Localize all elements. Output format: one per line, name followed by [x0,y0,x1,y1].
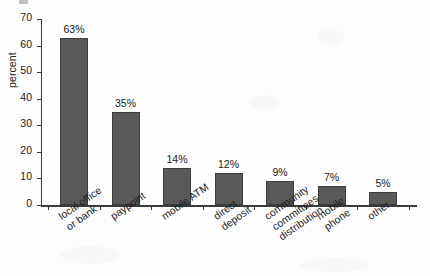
bar-chart-figure: percent 010203040506070 63%35%14%12%9%7%… [0,0,430,276]
bar-column[interactable]: 63% [60,19,88,205]
x-axis-tick-mark [254,205,255,210]
bar-value-label: 14% [166,154,187,165]
bar-value-label: 63% [63,24,84,35]
y-axis-tick-label: 60 [20,39,32,50]
y-axis-tick-label: 10 [20,171,32,182]
y-axis-tick-label: 50 [20,65,32,76]
y-axis-tick-label: 20 [20,145,32,156]
bar-column[interactable]: 9% [266,19,294,205]
y-axis-title: percent [6,52,18,88]
bar-value-label: 9% [272,167,287,178]
bar-value-label: 35% [115,98,136,109]
bar-column[interactable]: 5% [369,19,397,205]
y-axis-tick-label: 0 [26,198,32,209]
x-axis-tick-mark [409,205,410,210]
scan-artifact-haze [300,258,370,272]
y-axis-tick-mark [37,205,41,206]
bar-value-label: 5% [375,178,390,189]
x-axis-tick-mark [48,205,49,210]
bar-column[interactable]: 12% [215,19,243,205]
scan-artifact-speck [19,0,28,4]
x-axis-tick-mark [357,205,358,210]
bar-column[interactable]: 14% [163,19,191,205]
bar-value-label: 12% [218,159,239,170]
x-axis-tick-mark [151,205,152,210]
scan-artifact-haze [60,246,120,264]
bar[interactable] [112,112,140,205]
bar[interactable] [60,38,88,205]
bar-column[interactable]: 7% [318,19,346,205]
x-axis-tick-mark [203,205,204,210]
bar-value-label: 7% [324,172,339,183]
bar-column[interactable]: 35% [112,19,140,205]
y-axis-tick-label: 30 [20,118,32,129]
y-axis-tick-label: 40 [20,92,32,103]
y-axis-tick-label: 70 [20,12,32,23]
plot-area: 63%35%14%12%9%7%5% [41,19,412,205]
